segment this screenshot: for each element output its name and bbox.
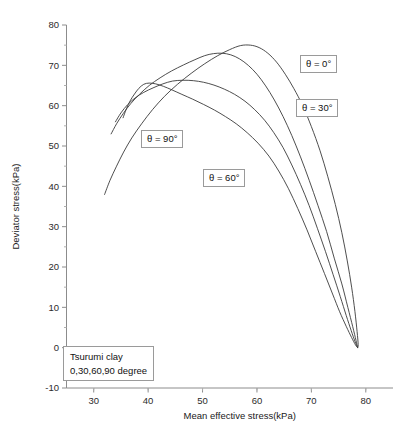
x-tick-label-70: 70 [306, 395, 317, 406]
y-tick-label-30: 30 [48, 221, 59, 232]
chart-figure: -1001020304050607080304050607080Mean eff… [0, 0, 406, 441]
sample-name: Tsurumi clay [70, 350, 147, 364]
y-tick-label-40: 40 [48, 181, 59, 192]
x-tick-label-80: 80 [361, 395, 372, 406]
annotation-theta-30: θ = 30° [296, 99, 338, 117]
sample-angles: 0,30,60,90 degree [70, 364, 147, 378]
annotation-theta-90-label: θ = 90° [147, 133, 177, 144]
x-tick-label-50: 50 [197, 395, 208, 406]
y-axis-title: Deviator stress(kPa) [10, 163, 21, 249]
x-tick-label-40: 40 [143, 395, 154, 406]
y-tick-label-50: 50 [48, 140, 59, 151]
chart-canvas: -1001020304050607080304050607080Mean eff… [0, 0, 406, 441]
y-tick-label-70: 70 [48, 60, 59, 71]
annotation-theta-60: θ = 60° [203, 169, 245, 187]
y-tick-label--10: -10 [45, 382, 59, 393]
curve-theta-0 [105, 45, 359, 348]
annotation-theta-0-label: θ = 0° [306, 58, 331, 69]
curve-theta-90 [123, 83, 358, 348]
annotation-theta-90: θ = 90° [141, 130, 183, 148]
annotation-theta-0: θ = 0° [300, 55, 337, 73]
y-tick-label-20: 20 [48, 261, 59, 272]
y-tick-label-80: 80 [48, 19, 59, 30]
y-tick-label-60: 60 [48, 100, 59, 111]
annotation-theta-60-label: θ = 60° [209, 172, 239, 183]
y-tick-label-10: 10 [48, 302, 59, 313]
x-tick-label-60: 60 [252, 395, 263, 406]
curve-theta-30 [111, 53, 358, 348]
annotation-sample-info: Tsurumi clay 0,30,60,90 degree [63, 346, 154, 381]
x-axis-title: Mean effective stress(kPa) [184, 410, 296, 421]
y-tick-label-0: 0 [54, 342, 59, 353]
x-tick-label-30: 30 [88, 395, 99, 406]
annotation-theta-30-label: θ = 30° [302, 102, 332, 113]
